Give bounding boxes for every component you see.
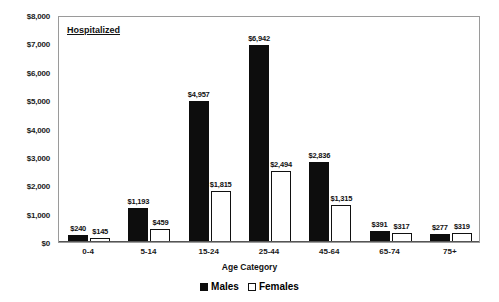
- hospitalized-bar-chart: $0$1,000$2,000$3,000$4,000$5,000$6,000$7…: [0, 0, 499, 302]
- x-axis-baseline: [59, 241, 479, 242]
- x-axis-tick-label: 5-14: [140, 247, 156, 256]
- bar-value-label: $2,494: [270, 160, 292, 169]
- bar-value-label: $1,815: [210, 180, 232, 189]
- bar-value-label: $2,836: [308, 151, 330, 160]
- legend-label-females: Females: [259, 281, 299, 292]
- bar-females-45-64: [331, 205, 351, 242]
- legend-swatch-females-icon: [248, 283, 256, 291]
- bar-value-label: $319: [454, 222, 470, 231]
- legend-item-males: Males: [200, 281, 239, 292]
- bar-value-label: $145: [92, 227, 108, 236]
- chart-legend: Males Females: [0, 281, 499, 292]
- bar-value-label: $1,193: [128, 197, 150, 206]
- x-axis-title: Age Category: [0, 262, 499, 272]
- bar-value-label: $459: [152, 218, 168, 227]
- legend-item-females: Females: [248, 281, 299, 292]
- bar-value-label: $391: [372, 220, 388, 229]
- plot-area: Hospitalized $240$145$1,193$459$4,957$1,…: [58, 16, 480, 243]
- bar-value-label: $1,315: [330, 194, 352, 203]
- bar-value-label: $4,957: [188, 90, 210, 99]
- y-axis: $0$1,000$2,000$3,000$4,000$5,000$6,000$7…: [0, 16, 54, 243]
- legend-swatch-males-icon: [200, 283, 208, 291]
- bars-container: $240$145$1,193$459$4,957$1,815$6,942$2,4…: [59, 17, 479, 242]
- y-axis-tick-label: $6,000: [27, 68, 50, 77]
- y-axis-tick-label: $4,000: [27, 125, 50, 134]
- x-axis-tick-label: 75+: [443, 247, 457, 256]
- bar-value-label: $240: [70, 224, 86, 233]
- bar-males-45-64: [309, 162, 329, 242]
- bar-value-label: $277: [432, 223, 448, 232]
- bar-value-label: $317: [394, 222, 410, 231]
- bar-females-25-44: [271, 171, 291, 242]
- legend-label-males: Males: [211, 281, 239, 292]
- y-axis-tick-label: $3,000: [27, 153, 50, 162]
- bar-value-label: $6,942: [248, 34, 270, 43]
- y-axis-tick-label: $0: [42, 239, 51, 248]
- y-axis-tick-label: $8,000: [27, 12, 50, 21]
- bar-males-25-44: [249, 45, 269, 242]
- x-axis-tick-label: 65-74: [379, 247, 399, 256]
- x-axis-tick-label: 45-64: [319, 247, 339, 256]
- bar-males-5-14: [128, 208, 148, 242]
- x-axis-tick-label: 25-44: [259, 247, 279, 256]
- bar-males-15-24: [189, 101, 209, 242]
- x-axis-tick-label: 15-24: [198, 247, 218, 256]
- x-axis-tick-label: 0-4: [82, 247, 94, 256]
- y-axis-tick-label: $7,000: [27, 40, 50, 49]
- bar-females-15-24: [211, 191, 231, 243]
- y-axis-tick-label: $1,000: [27, 210, 50, 219]
- y-axis-tick-label: $2,000: [27, 182, 50, 191]
- y-axis-tick-label: $5,000: [27, 97, 50, 106]
- x-axis-tick-labels: 0-45-1415-2425-4445-6465-7475+: [58, 247, 480, 261]
